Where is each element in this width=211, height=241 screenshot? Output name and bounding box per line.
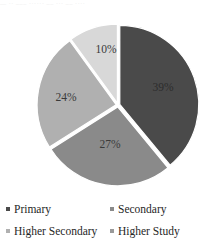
pie-data-label-higher-secondary: 24%: [55, 91, 76, 103]
pie-data-label-primary: 39%: [152, 81, 173, 93]
legend-item-higher-secondary[interactable]: Higher Secondary: [6, 220, 110, 241]
scan-artifact-strip: — ·· ––– ······ –– ··· –– ····: [0, 0, 211, 9]
pie-data-label-secondary: 27%: [99, 138, 120, 150]
legend-swatch-primary: [6, 207, 10, 211]
pie-data-label-higher-study: 10%: [95, 43, 116, 55]
legend-swatch-higher-study: [110, 229, 114, 233]
pie-slice-group: [37, 24, 199, 186]
pie-chart-svg: [0, 9, 211, 195]
legend-label-primary: Primary: [14, 202, 51, 216]
chart-legend: Primary Secondary Higher Secondary Highe…: [0, 196, 211, 241]
legend-label-secondary: Secondary: [118, 202, 167, 216]
pie-chart: 39%27%24%10%: [0, 9, 211, 195]
legend-label-higher-study: Higher Study: [118, 224, 180, 238]
legend-item-secondary[interactable]: Secondary: [110, 198, 211, 220]
legend-swatch-secondary: [110, 207, 114, 211]
legend-item-primary[interactable]: Primary: [6, 198, 110, 220]
legend-swatch-higher-secondary: [6, 229, 10, 233]
legend-item-higher-study[interactable]: Higher Study: [110, 220, 211, 241]
legend-label-higher-secondary: Higher Secondary: [14, 224, 97, 238]
